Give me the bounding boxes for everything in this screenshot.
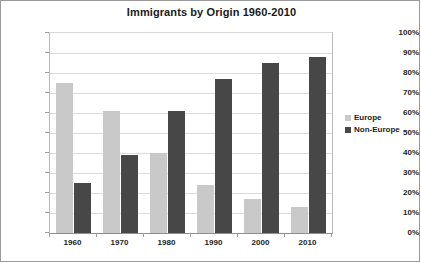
x-axis-tick-label: 1980: [158, 238, 176, 247]
y-axis-tick-label: 80%: [377, 68, 419, 77]
x-axis-tick-mark: [96, 233, 97, 237]
legend-item-europe[interactable]: Europe: [345, 113, 400, 122]
legend-item-label: Non-Europe: [354, 125, 400, 134]
x-axis-tick-mark: [143, 233, 144, 237]
x-axis-tick-label: 2000: [252, 238, 270, 247]
x-axis-tick-label: 1960: [64, 238, 82, 247]
bar-group: [50, 33, 332, 233]
chart-frame: Immigrants by Origin 1960-2010 100%90%80…: [0, 0, 420, 262]
legend-swatch-icon: [345, 115, 351, 121]
y-axis-tick-label: 100%: [377, 28, 419, 37]
x-axis-tick-label: 2010: [299, 238, 317, 247]
x-axis-tick-mark: [190, 233, 191, 237]
y-axis-tick-label: 90%: [377, 48, 419, 57]
plot-area: [49, 32, 333, 234]
x-axis-tick-mark: [284, 233, 285, 237]
x-axis-tick-mark: [49, 233, 50, 237]
y-axis-tick-label: 0%: [377, 228, 419, 237]
y-axis-tick-label: 70%: [377, 88, 419, 97]
x-axis-tick-label: 1990: [205, 238, 223, 247]
chart-title: Immigrants by Origin 1960-2010: [1, 6, 421, 18]
y-axis-tick-label: 10%: [377, 208, 419, 217]
legend-item-label: Europe: [354, 113, 382, 122]
y-axis-tick-label: 20%: [377, 188, 419, 197]
x-axis-tick-mark: [237, 233, 238, 237]
legend-item-non-europe[interactable]: Non-Europe: [345, 125, 400, 134]
x-axis-tick-label: 1970: [111, 238, 129, 247]
x-axis-tick-mark: [331, 233, 332, 237]
bar-non-europe-2010[interactable]: [309, 57, 326, 233]
chart-legend: EuropeNon-Europe: [345, 113, 400, 137]
bar-europe-2010[interactable]: [291, 207, 308, 233]
y-axis-tick-label: 40%: [377, 148, 419, 157]
y-axis-tick-label: 30%: [377, 168, 419, 177]
legend-swatch-icon: [345, 127, 351, 133]
